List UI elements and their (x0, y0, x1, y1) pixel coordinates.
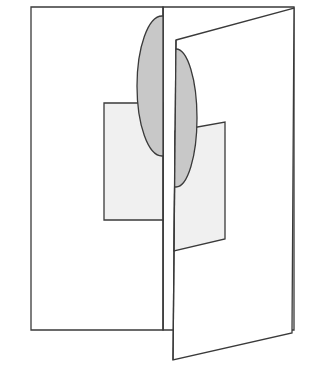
folded-card-diagram (0, 0, 313, 381)
